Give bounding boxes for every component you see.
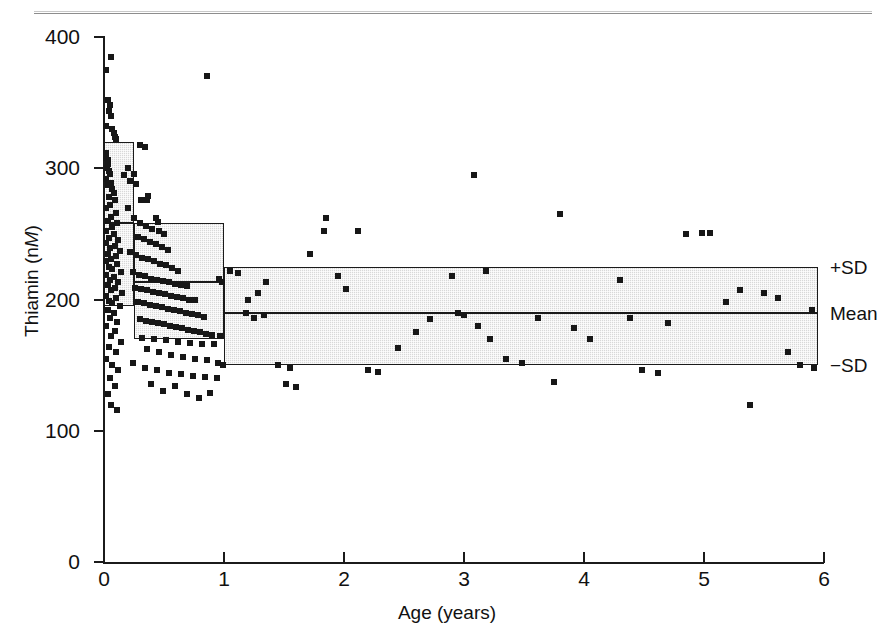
x-tick [343, 552, 345, 563]
legend-label-mean: Mean [830, 304, 878, 323]
scatter-point [196, 395, 202, 401]
scatter-point [144, 346, 150, 352]
scatter-point [737, 287, 743, 293]
y-tick [94, 299, 104, 301]
x-tick [223, 552, 225, 563]
scatter-point [217, 333, 223, 339]
y-axis-title-italic-m: M [21, 231, 42, 247]
scatter-point [139, 335, 145, 341]
legend-label-minus-sd: −SD [830, 356, 868, 375]
scatter-point [107, 315, 113, 321]
scatter-point [235, 270, 241, 276]
scatter-point [519, 360, 525, 366]
scatter-point [131, 171, 137, 177]
scatter-point [214, 375, 220, 381]
scatter-point [665, 320, 671, 326]
scatter-point [627, 315, 633, 321]
scatter-point [571, 325, 577, 331]
scatter-point [199, 341, 205, 347]
scatter-point [243, 310, 249, 316]
scatter-point [151, 336, 157, 342]
scatter-point [113, 349, 119, 355]
scatter-point [192, 356, 198, 362]
y-axis-title: Thiamin (nM) [21, 171, 43, 391]
scatter-point [180, 354, 186, 360]
x-tick-label: 3 [444, 568, 484, 589]
scatter-point [587, 336, 593, 342]
scatter-point [204, 357, 210, 363]
scatter-point [293, 384, 299, 390]
scatter-point [119, 290, 125, 296]
x-tick-label: 5 [684, 568, 724, 589]
scatter-point [142, 144, 148, 150]
scatter-point [175, 268, 181, 274]
scatter-point [321, 228, 327, 234]
scatter-point [156, 349, 162, 355]
scatter-point [202, 374, 208, 380]
scatter-point [117, 303, 123, 309]
scatter-point [785, 349, 791, 355]
x-tick [703, 552, 705, 563]
scatter-point [125, 205, 131, 211]
scatter-point [165, 247, 171, 253]
scatter-point [160, 388, 166, 394]
scatter-point [166, 370, 172, 376]
scatter-point [220, 362, 226, 368]
scatter-point [413, 329, 419, 335]
scatter-point [103, 228, 109, 234]
scatter-point [551, 379, 557, 385]
scatter-point [108, 113, 114, 119]
scatter-point [355, 228, 361, 234]
scatter-point [154, 367, 160, 373]
scatter-point [503, 356, 509, 362]
scatter-point [163, 337, 169, 343]
y-tick [94, 430, 104, 432]
scatter-point [775, 295, 781, 301]
scatter-point [118, 269, 124, 275]
y-axis-title-suffix: ) [21, 225, 42, 231]
scatter-point [483, 268, 489, 274]
scatter-point [365, 367, 371, 373]
scatter-point [639, 367, 645, 373]
x-tick [463, 552, 465, 563]
scatter-point [168, 352, 174, 358]
scatter-point [103, 67, 109, 73]
scatter-point [107, 375, 113, 381]
x-tick-label: 2 [324, 568, 364, 589]
y-tick-label: 100 [34, 420, 80, 441]
scatter-point [707, 230, 713, 236]
scatter-point [109, 224, 115, 230]
scatter-point [108, 54, 114, 60]
scatter-point [184, 391, 190, 397]
scatter-point [209, 332, 215, 338]
scatter-point [113, 136, 119, 142]
scatter-point [699, 230, 705, 236]
scatter-point [211, 341, 217, 347]
y-tick-label: 0 [34, 551, 80, 572]
scatter-point [108, 333, 114, 339]
scatter-point [115, 367, 121, 373]
scatter-point [204, 73, 210, 79]
scatter-point [307, 251, 313, 257]
x-tick-label: 0 [84, 568, 124, 589]
scatter-point [283, 381, 289, 387]
scatter-point [187, 340, 193, 346]
y-tick-label: 400 [34, 26, 80, 47]
scatter-point [219, 279, 225, 285]
scatter-point [109, 266, 115, 272]
scatter-point [105, 218, 111, 224]
x-tick [103, 552, 105, 563]
scatter-point [263, 279, 269, 285]
scatter-point [251, 315, 257, 321]
scatter-point [114, 407, 120, 413]
scatter-point [161, 231, 167, 237]
scatter-point [655, 370, 661, 376]
scatter-point [261, 312, 267, 318]
scatter-point [255, 290, 261, 296]
scatter-point [335, 273, 341, 279]
scatter-point [172, 383, 178, 389]
scatter-point [114, 319, 120, 325]
scatter-point [144, 197, 150, 203]
scatter-point [106, 344, 112, 350]
scatter-point [471, 172, 477, 178]
